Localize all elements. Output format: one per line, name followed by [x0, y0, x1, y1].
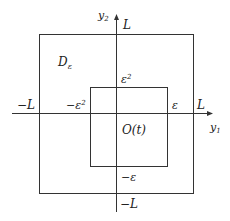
O-t-label: O(t)	[122, 123, 146, 137]
top-L-label: L	[122, 18, 131, 32]
minus-epsilon-bottom-label: −ε	[121, 171, 136, 184]
epsilon-right-label: ε	[172, 99, 178, 112]
y1-axis-arrow-icon	[207, 111, 213, 116]
left-minus-L-label: −L	[17, 98, 35, 112]
y2-axis-arrow-icon	[114, 14, 119, 20]
diagram-canvas: y2 y1 L −L −L L Dε ε2 −ε2 ε −ε O(t)	[0, 0, 230, 221]
D-epsilon-label: Dε	[57, 55, 72, 71]
epsilon-squared-top-label: ε2	[121, 73, 132, 86]
right-L-label: L	[196, 98, 205, 112]
y1-axis-label: y1	[209, 121, 221, 135]
minus-epsilon-squared-left-label: −ε2	[66, 99, 86, 112]
y2-axis-label: y2	[97, 9, 109, 23]
bottom-minus-L-label: −L	[120, 197, 138, 211]
